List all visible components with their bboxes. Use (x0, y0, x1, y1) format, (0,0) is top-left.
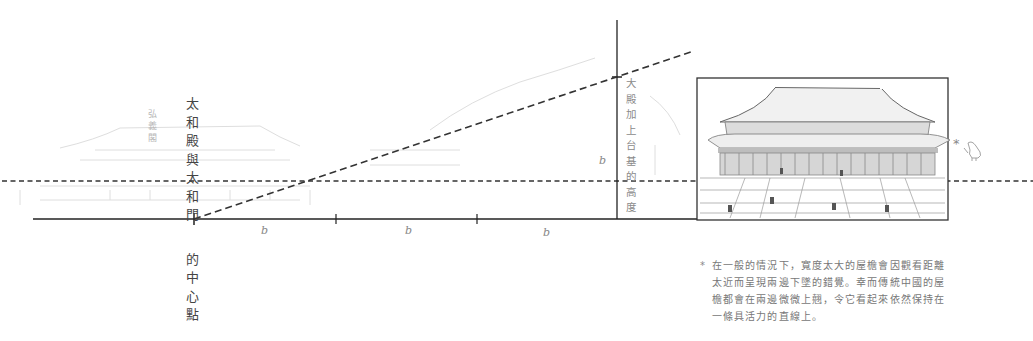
segment-b-label-1: b (261, 224, 268, 237)
hongyi-pavilion-label: 弘 義 閣 (148, 110, 157, 146)
label-char: 與 (186, 153, 199, 172)
footnote-line: 太近而呈現兩邊下墜的錯覺。幸而傳統中國的屋 (712, 274, 960, 291)
asterisk-marker: * (953, 136, 960, 151)
label-char: 加 (626, 109, 636, 125)
label-char: 殿 (186, 134, 199, 153)
label-char: 門 (186, 208, 199, 227)
footnote-line: 檐都會在兩邊微微上翹，令它看起來依然保持在 (712, 291, 960, 308)
label-char: 心 (186, 290, 199, 309)
label-char: 基 (626, 156, 636, 172)
hall-illustration (697, 78, 950, 220)
label-char: 的 (626, 171, 636, 187)
center-point-label: 太 和 殿 與 太 和 門 的 中 心 點 (186, 97, 199, 327)
footnote-star: * (700, 257, 706, 274)
label-char: 中 (186, 271, 199, 290)
viewer-sketch-icon (964, 142, 981, 161)
label-char: 太 (186, 97, 199, 116)
footnote: * 在一般的情況下，寬度太大的屋檐會因觀看距離 太近而呈現兩邊下墜的錯覺。幸而傳… (712, 257, 960, 325)
label-char: 的 (186, 253, 199, 272)
label-char: 上 (626, 125, 636, 141)
label-char: 台 (626, 140, 636, 156)
segment-b-label-3: b (543, 226, 550, 239)
footnote-line: 在一般的情況下，寬度太大的屋檐會因觀看距離 (712, 257, 960, 274)
label-char: 閣 (148, 134, 157, 146)
label-char: 高 (626, 187, 636, 203)
label-char: 度 (626, 202, 636, 218)
label-char: 和 (186, 190, 199, 209)
footnote-line: 一條具活力的直線上。 (712, 308, 960, 325)
sight-line-dashed (194, 51, 694, 219)
label-char: 殿 (626, 94, 636, 110)
label-char: 太 (186, 171, 199, 190)
ghost-building-sketch (20, 58, 680, 205)
label-char: 點 (186, 308, 199, 327)
label-char: 和 (186, 116, 199, 135)
hall-height-label: 大 殿 加 上 台 基 的 高 度 (626, 78, 636, 218)
vertical-b-label: b (599, 154, 606, 167)
segment-b-label-2: b (405, 224, 412, 237)
label-char: 大 (626, 78, 636, 94)
diagram-canvas: 太 和 殿 與 太 和 門 的 中 心 點 弘 義 閣 大 殿 加 上 台 基 … (0, 0, 1033, 341)
